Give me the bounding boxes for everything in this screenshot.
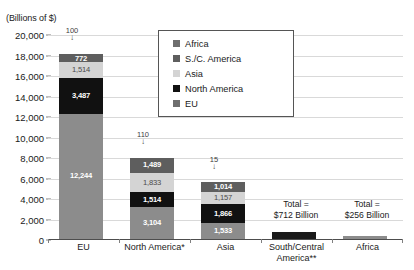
total-note-line2: $256 Billion bbox=[322, 210, 412, 221]
legend-item-eu[interactable]: EU bbox=[159, 96, 293, 111]
bar-segment-asia-eu[interactable]: 1,533 bbox=[201, 223, 245, 239]
bar-segment-asia-asia[interactable]: 1,157 bbox=[201, 192, 245, 204]
bar-segment-value: 12,244 bbox=[70, 172, 92, 180]
y-tick-label-10000: 10,000 bbox=[15, 132, 44, 143]
legend-label: Africa bbox=[185, 39, 209, 49]
legend-swatch-sc-america-icon bbox=[173, 55, 180, 62]
legend-label: Asia bbox=[185, 69, 203, 79]
bar-segment-value: 3,487 bbox=[72, 92, 90, 100]
x-axis-label-line1: Africa bbox=[332, 242, 403, 253]
x-axis-label-south-central-america[interactable]: South/Central America** bbox=[261, 242, 332, 265]
x-axis-line bbox=[48, 239, 403, 240]
bar-segment-eu-sc-america[interactable]: 772 bbox=[59, 54, 103, 62]
bar-column-north-america[interactable]: 1,489 1,833 1,514 3,104 bbox=[130, 157, 174, 240]
bar-segment-value: 1,866 bbox=[214, 210, 232, 218]
x-axis-label-africa[interactable]: Africa bbox=[332, 242, 403, 253]
bar-segment-na-north-america[interactable]: 1,514 bbox=[130, 192, 174, 208]
bar-segment-value: 1,014 bbox=[214, 183, 232, 191]
x-axis-label-line1: EU bbox=[48, 242, 119, 253]
legend-item-north-america[interactable]: North America bbox=[159, 81, 293, 96]
bar-segment-value: 1,833 bbox=[143, 179, 161, 187]
y-axis-unit-title: (Billions of $) bbox=[6, 13, 57, 23]
bar-segment-asia-sc-america[interactable]: 1,014 bbox=[201, 182, 245, 192]
bar-segment-na-sc-america[interactable]: 1,489 bbox=[130, 158, 174, 173]
y-tick-label-14000: 14,000 bbox=[15, 91, 44, 102]
bar-segment-value: 3,104 bbox=[143, 219, 161, 227]
bar-segment-value: 1,157 bbox=[214, 194, 232, 202]
y-tick-label-4000: 4,000 bbox=[20, 194, 44, 205]
legend-label: EU bbox=[185, 99, 198, 109]
y-tick-label-12000: 12,000 bbox=[15, 112, 44, 123]
legend-item-asia[interactable]: Asia bbox=[159, 66, 293, 81]
callout-eu-africa: 100 ↓ bbox=[57, 27, 87, 41]
callout-arrow-icon: ↓ bbox=[199, 163, 229, 170]
x-axis-label-line1: South/Central bbox=[261, 242, 332, 253]
y-axis-tick-layer: 20,000 18,000 16,000 14,000 12,000 10,00… bbox=[0, 35, 46, 240]
legend-swatch-africa-icon bbox=[173, 40, 180, 47]
y-tick-label-18000: 18,000 bbox=[15, 50, 44, 61]
y-tick-label-6000: 6,000 bbox=[20, 173, 44, 184]
legend-swatch-asia-icon bbox=[173, 70, 180, 77]
total-note-line1: Total = bbox=[322, 199, 412, 210]
bar-column-south-central-america[interactable] bbox=[272, 232, 316, 239]
y-tick-label-0: 0 bbox=[39, 235, 44, 246]
bar-segment-na-asia[interactable]: 1,833 bbox=[130, 173, 174, 192]
chart-legend: Africa S./C. America Asia North America … bbox=[158, 30, 294, 117]
x-axis-label-layer: EU North America* Asia South/Central Ame… bbox=[48, 242, 403, 270]
y-tick-label-20000: 20,000 bbox=[15, 30, 44, 41]
x-axis-label-line2: America** bbox=[261, 253, 332, 264]
callout-asia-africa: 15 ↓ bbox=[199, 156, 229, 170]
x-axis-label-line1: Asia bbox=[190, 242, 261, 253]
legend-item-sc-america[interactable]: S./C. America bbox=[159, 51, 293, 66]
x-axis-label-asia[interactable]: Asia bbox=[190, 242, 261, 253]
bar-segment-value: 1,533 bbox=[214, 227, 232, 235]
bar-column-eu[interactable]: 772 1,514 3,487 12,244 bbox=[59, 53, 103, 239]
legend-swatch-north-america-icon bbox=[173, 85, 180, 92]
bar-segment-eu-asia[interactable]: 1,514 bbox=[59, 62, 103, 78]
bar-segment-africa-stack[interactable] bbox=[343, 236, 387, 239]
bar-segment-value: 1,514 bbox=[72, 66, 90, 74]
callout-arrow-icon: ↓ bbox=[57, 34, 87, 41]
bar-segment-eu-north-america[interactable]: 3,487 bbox=[59, 78, 103, 114]
bar-column-africa[interactable] bbox=[343, 236, 387, 239]
bar-segment-value: 1,514 bbox=[143, 196, 161, 204]
bar-segment-eu-eu[interactable]: 12,244 bbox=[59, 114, 103, 240]
x-axis-label-eu[interactable]: EU bbox=[48, 242, 119, 253]
x-axis-label-north-america[interactable]: North America* bbox=[119, 242, 190, 253]
total-note-africa: Total = $256 Billion bbox=[322, 199, 412, 220]
bar-segment-na-eu[interactable]: 3,104 bbox=[130, 207, 174, 239]
callout-north-america-africa: 110 ↓ bbox=[128, 131, 158, 145]
bar-segment-value: 772 bbox=[75, 55, 87, 63]
y-tick-label-8000: 8,000 bbox=[20, 153, 44, 164]
callout-arrow-icon: ↓ bbox=[128, 138, 158, 145]
legend-item-africa[interactable]: Africa bbox=[159, 36, 293, 51]
bar-column-asia[interactable]: 1,014 1,157 1,866 1,533 bbox=[201, 182, 245, 239]
y-tick-label-16000: 16,000 bbox=[15, 71, 44, 82]
bar-segment-value: 1,489 bbox=[143, 161, 161, 169]
bar-segment-asia-north-america[interactable]: 1,866 bbox=[201, 204, 245, 223]
stacked-bar-chart: (Billions of $) 20,000 18,000 16,000 14,… bbox=[0, 0, 414, 270]
y-tick-label-2000: 2,000 bbox=[20, 214, 44, 225]
legend-swatch-eu-icon bbox=[173, 100, 180, 107]
legend-label: S./C. America bbox=[185, 54, 241, 64]
legend-label: North America bbox=[185, 84, 243, 94]
bar-segment-sca-stack[interactable] bbox=[272, 232, 316, 239]
x-axis-label-line1: North America* bbox=[119, 242, 190, 253]
